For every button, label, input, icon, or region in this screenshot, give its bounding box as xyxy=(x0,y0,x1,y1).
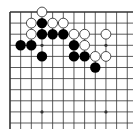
white-stone[interactable] xyxy=(80,40,90,50)
white-stone[interactable] xyxy=(90,52,100,62)
white-stone[interactable] xyxy=(26,18,36,28)
black-stone[interactable] xyxy=(37,29,47,39)
star-point-icon xyxy=(104,110,107,113)
white-stone[interactable] xyxy=(48,18,58,28)
black-stone[interactable] xyxy=(37,18,47,28)
star-point-icon xyxy=(40,110,43,113)
black-stone[interactable] xyxy=(79,51,89,61)
star-point-icon xyxy=(104,44,107,47)
white-stone[interactable] xyxy=(80,29,90,39)
go-board[interactable] xyxy=(0,0,140,133)
white-stone[interactable] xyxy=(101,52,111,62)
black-stone[interactable] xyxy=(69,51,79,61)
black-stone[interactable] xyxy=(26,40,36,50)
white-stone[interactable] xyxy=(58,18,68,28)
black-stone[interactable] xyxy=(90,62,100,72)
white-stone[interactable] xyxy=(37,7,47,17)
black-stone[interactable] xyxy=(15,40,25,50)
black-stone[interactable] xyxy=(37,51,47,61)
white-stone[interactable] xyxy=(69,29,79,39)
white-stone[interactable] xyxy=(101,29,111,39)
black-stone[interactable] xyxy=(58,29,68,39)
black-stone[interactable] xyxy=(47,29,57,39)
white-stone[interactable] xyxy=(26,29,36,39)
black-stone[interactable] xyxy=(69,40,79,50)
star-point-icon xyxy=(40,44,43,47)
